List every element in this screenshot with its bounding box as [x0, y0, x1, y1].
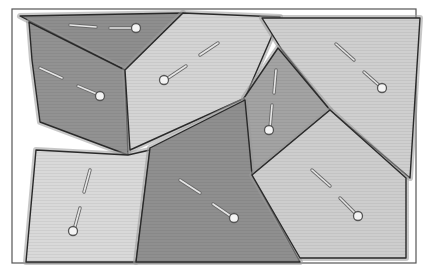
cell-texture	[26, 150, 150, 262]
seed-point-icon	[160, 76, 169, 85]
cell-left-light	[26, 150, 150, 262]
voronoi-diagram	[0, 0, 430, 270]
seed-point-icon	[378, 84, 387, 93]
cells-layer	[20, 13, 420, 262]
diagram-canvas	[0, 0, 430, 270]
seed-point-icon	[354, 212, 363, 221]
seed-point-icon	[265, 126, 274, 135]
seed-point-icon	[132, 24, 141, 33]
seed-point-icon	[69, 227, 78, 236]
seed-point-icon	[230, 214, 239, 223]
seed-point-icon	[96, 92, 105, 101]
